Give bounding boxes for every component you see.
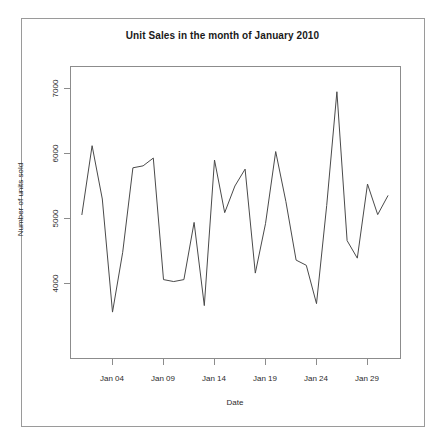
data-series-line xyxy=(82,92,388,312)
chart-page: Unit Sales in the month of January 2010 … xyxy=(0,0,445,447)
y-axis-ticks xyxy=(64,89,71,284)
plot-svg xyxy=(0,0,445,447)
plot-area-frame xyxy=(71,67,401,359)
x-axis-ticks xyxy=(113,359,368,366)
